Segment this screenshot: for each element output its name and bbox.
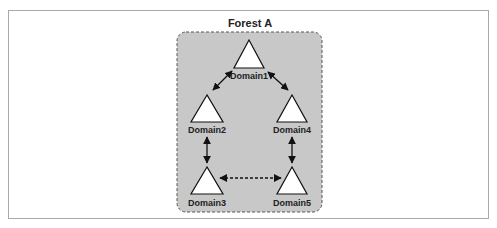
forest-title: Forest A [228,17,272,29]
domain-label: Domain1 [230,71,268,81]
domain-label: Domain5 [273,198,311,208]
domain-label: Domain3 [188,198,226,208]
forest-diagram: Forest A Domain1 Domain2 Domain4 Domain3… [0,0,497,228]
domain-label: Domain2 [188,125,226,135]
domain-label: Domain4 [273,125,311,135]
